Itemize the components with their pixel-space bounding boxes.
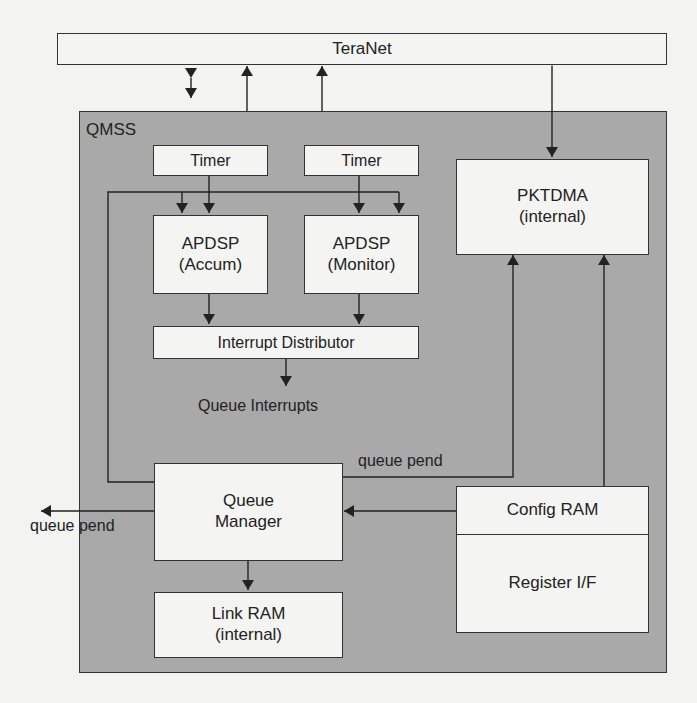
queue-pend-external-label: queue pend (30, 517, 115, 535)
teranet-label: TeraNet (332, 39, 392, 60)
register-if-section: Register I/F (457, 535, 648, 632)
queue-pend-internal-label: queue pend (358, 452, 443, 470)
link-ram-title: Link RAM (212, 604, 286, 625)
teranet-bus: TeraNet (57, 33, 667, 65)
pktdma-subtitle: (internal) (519, 207, 586, 228)
apdsp-accum-block: APDSP (Accum) (153, 215, 268, 294)
pktdma-block: PKTDMA (internal) (456, 159, 649, 255)
link-ram-subtitle: (internal) (215, 625, 282, 646)
queue-interrupts-label: Queue Interrupts (198, 397, 318, 415)
queue-manager-line1: Queue (223, 491, 274, 512)
apdsp-accum-subtitle: (Accum) (179, 255, 242, 276)
interrupt-distributor-block: Interrupt Distributor (153, 326, 419, 359)
interrupt-distributor-label: Interrupt Distributor (218, 333, 355, 353)
register-if-label: Register I/F (509, 573, 597, 594)
timer-label: Timer (341, 151, 381, 171)
config-register-block: Config RAM Register I/F (456, 486, 649, 633)
queue-manager-block: Queue Manager (154, 463, 343, 561)
apdsp-accum-title: APDSP (182, 234, 240, 255)
pktdma-title: PKTDMA (517, 186, 588, 207)
timer-label: Timer (190, 151, 230, 171)
apdsp-monitor-block: APDSP (Monitor) (304, 215, 419, 294)
queue-manager-line2: Manager (215, 512, 282, 533)
timer-monitor-block: Timer (304, 145, 419, 176)
apdsp-monitor-title: APDSP (333, 234, 391, 255)
timer-accum-block: Timer (153, 145, 268, 176)
apdsp-monitor-subtitle: (Monitor) (327, 255, 395, 276)
link-ram-block: Link RAM (internal) (154, 592, 343, 658)
config-ram-label: Config RAM (507, 500, 599, 521)
config-ram-section: Config RAM (457, 487, 648, 535)
